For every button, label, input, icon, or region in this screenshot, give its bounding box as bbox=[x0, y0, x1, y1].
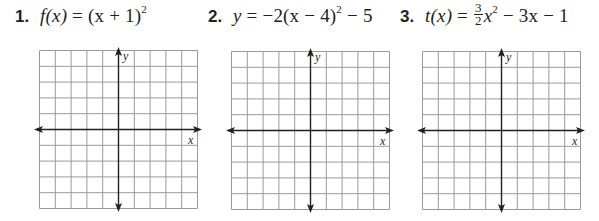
problem-2: 2. y = −2(x − 4)2 − 5 bbox=[192, 0, 399, 221]
axes bbox=[34, 47, 202, 212]
equals-sign: = bbox=[452, 5, 473, 26]
problem-3: 3. t(x) = 32x2 − 3x − 1 bbox=[399, 0, 599, 221]
equation-lhs: t(x) bbox=[425, 5, 452, 26]
fraction: 32 bbox=[474, 2, 483, 27]
coordinate-grid-1: x y bbox=[0, 0, 210, 221]
fraction-denominator: 2 bbox=[474, 15, 483, 27]
problem-1: 1. f(x) = (x + 1)2 x y bbox=[0, 0, 200, 221]
equation-tail: − 3x − 1 bbox=[498, 5, 569, 26]
coordinate-grid-2 bbox=[192, 0, 402, 221]
problem-number: 3. bbox=[400, 7, 425, 27]
problem-3-header: 3. t(x) = 32x2 − 3x − 1 bbox=[400, 5, 569, 31]
y-axis-label: y bbox=[122, 49, 129, 63]
equation: t(x) = 32x2 − 3x − 1 bbox=[425, 5, 569, 30]
